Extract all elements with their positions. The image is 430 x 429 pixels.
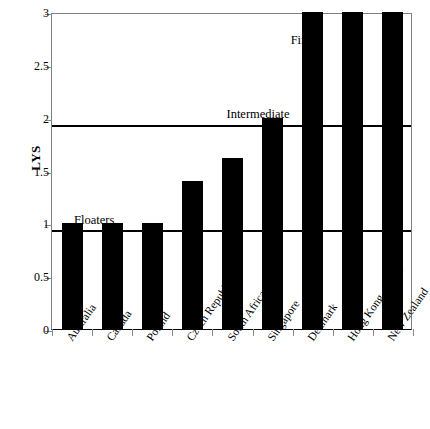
annotation-floaters: Floaters bbox=[74, 213, 114, 227]
x-tick-mark bbox=[333, 329, 334, 336]
bar-chart: LYS 00.511.522.53 FloatersIntermediateFi… bbox=[0, 0, 430, 429]
x-tick-mark bbox=[92, 329, 93, 336]
x-tick-mark bbox=[253, 329, 254, 336]
x-tick-mark bbox=[293, 329, 294, 336]
annotation-intermediate: Intermediate bbox=[226, 107, 289, 121]
y-tick-label: 1 bbox=[43, 216, 49, 233]
bar bbox=[342, 12, 363, 329]
x-tick-mark bbox=[52, 329, 53, 336]
y-tick-label: 3 bbox=[43, 5, 49, 22]
reference-line-intermediate bbox=[52, 125, 411, 127]
y-tick-label: 0 bbox=[43, 322, 49, 339]
x-tick-mark bbox=[212, 329, 213, 336]
annotation-fixers: Fixers bbox=[291, 33, 322, 47]
bar bbox=[302, 12, 323, 329]
bar bbox=[182, 181, 203, 329]
y-tick-label: 2 bbox=[43, 111, 49, 128]
y-tick-label: 0.5 bbox=[34, 269, 49, 286]
x-tick-mark bbox=[132, 329, 133, 336]
reference-line-floaters bbox=[52, 230, 411, 232]
x-tick-mark bbox=[172, 329, 173, 336]
bar bbox=[222, 158, 243, 329]
y-tick-label: 1.5 bbox=[34, 164, 49, 181]
y-tick-label: 2.5 bbox=[34, 58, 49, 75]
x-tick-mark bbox=[413, 329, 414, 336]
x-tick-mark bbox=[373, 329, 374, 336]
